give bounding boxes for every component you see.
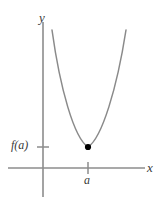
y-axis-label: y (39, 11, 45, 24)
x-axis-label: x (147, 161, 153, 174)
x-tick-label-a: a (84, 174, 90, 186)
parabola-curve (52, 30, 126, 147)
y-tick-label-fa: f(a) (11, 139, 28, 151)
minimum-point-marker (85, 144, 91, 150)
graph-canvas (0, 0, 163, 205)
math-figure: y x a f(a) (0, 0, 163, 205)
